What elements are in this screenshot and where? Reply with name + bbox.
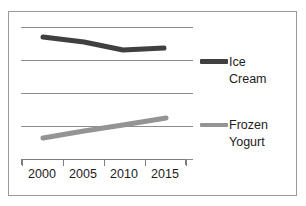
- x-axis-label-2015: 2015: [143, 167, 187, 182]
- legend-label-frozen-yogurt-line2: Yogurt: [229, 134, 265, 150]
- x-tick-0: [22, 160, 23, 166]
- legend-label-ice-cream-line1: Ice: [229, 54, 246, 70]
- legend-item-frozen-yogurt[interactable]: Frozen Yogurt: [198, 117, 298, 134]
- x-axis: [21, 159, 186, 165]
- legend-swatch-frozen-yogurt: [200, 123, 228, 127]
- series-line-ice-cream: [43, 37, 164, 50]
- x-tick-4: [186, 160, 187, 166]
- legend-swatch-ice-cream: [200, 59, 228, 64]
- x-tick-1: [63, 160, 64, 166]
- x-axis-labels: 2000 2005 2010 2015: [21, 167, 201, 183]
- legend-label-ice-cream-line2: Cream: [229, 71, 267, 87]
- x-tick-2: [104, 160, 105, 166]
- chart-screenshot: 2000 2005 2010 2015 Ice Cream Frozen Yog…: [0, 0, 306, 206]
- x-axis-label-2010: 2010: [102, 167, 146, 182]
- chart-legend: Ice Cream Frozen Yogurt: [198, 12, 298, 197]
- chart-frame: 2000 2005 2010 2015 Ice Cream Frozen Yog…: [8, 11, 297, 196]
- x-tick-3: [145, 160, 146, 166]
- x-axis-label-2005: 2005: [61, 167, 105, 182]
- x-axis-label-2000: 2000: [20, 167, 64, 182]
- legend-label-frozen-yogurt-line1: Frozen: [229, 117, 268, 133]
- series-line-frozen-yogurt: [43, 118, 166, 138]
- clipped-header-artifact: [10, 0, 290, 9]
- legend-item-ice-cream[interactable]: Ice Cream: [198, 54, 298, 71]
